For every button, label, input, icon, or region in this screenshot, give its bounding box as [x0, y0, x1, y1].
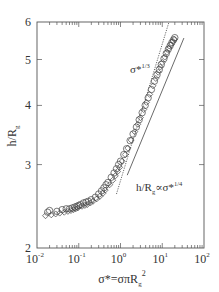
tick-labels: 2345610-210-1100101102 [25, 15, 210, 266]
x-tick-label: 102 [194, 251, 210, 266]
scatter-chart: 2345610-210-1100101102 h/Rg σ*=σπRg2 σ*1… [0, 0, 219, 292]
y-tick-label: 4 [25, 98, 31, 112]
y-axis-label: h/Rg [5, 125, 21, 146]
y-tick-label: 6 [25, 15, 31, 29]
x-tick-label: 10-2 [26, 251, 44, 266]
annotation-h-rg-one-fourth: h/Rg∝σ*1/4 [136, 180, 183, 195]
y-tick-label: 5 [25, 53, 31, 67]
x-tick-label: 101 [153, 251, 169, 266]
diamond-marker [119, 158, 125, 164]
diamond-marker [122, 152, 128, 158]
annotation-sigma-one-third: σ*1/3 [130, 62, 150, 75]
reference-line-one-fourth [127, 38, 184, 175]
x-tick-label: 10-1 [68, 251, 86, 266]
x-axis-label: σ*=σπRg2 [98, 269, 145, 288]
y-tick-label: 3 [25, 158, 31, 172]
x-tick-label: 100 [111, 251, 127, 266]
reference-lines [116, 22, 183, 194]
